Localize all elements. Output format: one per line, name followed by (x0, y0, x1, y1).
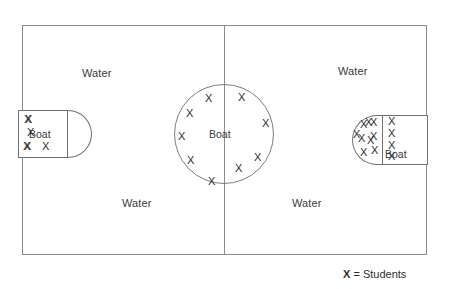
student-marker: X (205, 93, 212, 104)
student-marker: X (388, 151, 395, 162)
center-boat-label: Boat (209, 128, 231, 140)
student-marker: X (187, 155, 194, 166)
student-marker: X (371, 145, 378, 156)
student-marker: X (367, 135, 374, 146)
student-marker: X (27, 127, 34, 138)
water-label-top-right: Water (338, 65, 367, 77)
student-marker: X (24, 141, 31, 152)
student-marker: X (235, 163, 242, 174)
left-boat-bow (68, 110, 92, 158)
water-label-bottom-left: Water (122, 197, 151, 209)
pool-diagram: Water Water Water Water Boat XXX XXX Boa… (0, 0, 450, 289)
legend: X = Students (343, 268, 406, 280)
legend-separator: = (350, 268, 363, 280)
student-marker: X (24, 114, 31, 125)
left-boat: Boat XXX XXX (18, 110, 92, 158)
student-marker: X (42, 141, 49, 152)
water-label-bottom-right: Water (292, 197, 321, 209)
legend-description: Students (363, 268, 406, 280)
student-marker: X (186, 108, 193, 119)
water-label-top-left: Water (82, 67, 111, 79)
right-boat: Boat XXXXXX XXXXXXX (352, 115, 428, 165)
student-marker: X (388, 116, 395, 127)
student-marker: X (365, 117, 372, 128)
student-marker: X (208, 176, 215, 187)
student-marker: X (360, 147, 367, 158)
student-marker: X (254, 152, 261, 163)
student-marker: X (388, 128, 395, 139)
student-marker: X (262, 118, 269, 129)
student-marker: X (353, 129, 360, 140)
student-marker: X (178, 131, 185, 142)
student-marker: X (238, 92, 245, 103)
